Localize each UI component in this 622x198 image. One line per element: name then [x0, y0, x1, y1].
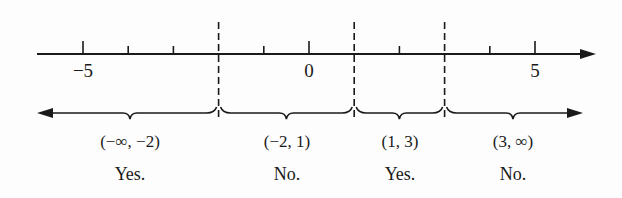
number-line-graphics [0, 0, 622, 198]
number-line-diagram: −5 0 5 (−∞, −2) (−2, 1) (1, 3) (3, ∞) Ye… [0, 0, 622, 198]
arrow-right-icon [567, 108, 583, 118]
interval-label-3: (1, 3) [382, 132, 419, 152]
brace-interval-2 [221, 107, 353, 119]
answer-label-4: No. [500, 164, 527, 185]
interval-label-2: (−2, 1) [264, 132, 310, 152]
answer-label-3: Yes. [385, 164, 416, 185]
interval-label-1: (−∞, −2) [100, 132, 160, 152]
answer-label-2: No. [274, 164, 301, 185]
brace-interval-3 [356, 107, 442, 119]
brace-interval-4 [447, 107, 571, 119]
arrow-right-icon [580, 49, 596, 59]
tick-label-0: 0 [304, 60, 314, 82]
answer-label-1: Yes. [115, 164, 146, 185]
brace-interval-1 [47, 107, 217, 119]
tick-label-5: 5 [530, 60, 540, 82]
critical-point-dashed-lines [219, 22, 445, 118]
interval-braces [37, 107, 583, 119]
tick-marks [83, 41, 535, 54]
interval-label-4: (3, ∞) [493, 132, 533, 152]
axis [37, 49, 596, 59]
tick-label-neg5: −5 [73, 60, 93, 82]
